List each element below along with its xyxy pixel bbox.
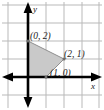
coordinate-plane <box>0 0 104 110</box>
y-axis-arrow-up <box>24 2 33 13</box>
figure-canvas: (0, 2) (2, 1) (1, 0) x y <box>0 0 104 110</box>
point-label-2-1: (2, 1) <box>64 50 85 60</box>
y-axis-label: y <box>33 5 37 14</box>
point-label-0-2: (0, 2) <box>30 32 51 42</box>
y-axis-arrow-down <box>24 97 33 108</box>
x-axis-label: x <box>91 82 95 91</box>
point-label-1-0: (1, 0) <box>50 69 71 79</box>
